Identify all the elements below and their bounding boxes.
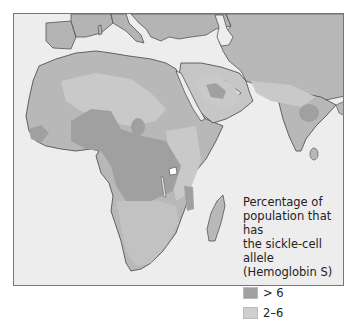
legend-swatch-medium bbox=[243, 307, 258, 319]
legend-title: Percentage of population that has the si… bbox=[243, 195, 353, 279]
legend-title-line: (Hemoglobin S) bbox=[243, 265, 353, 279]
legend-label-medium: 2–6 bbox=[263, 306, 283, 320]
legend-label-high: > 6 bbox=[263, 286, 284, 300]
sardinia-land bbox=[98, 25, 102, 35]
legend-title-line: population that has bbox=[243, 209, 353, 237]
legend-item-medium: 2–6 bbox=[243, 305, 353, 321]
iberia-land bbox=[46, 21, 76, 49]
zone-gt6-chad bbox=[131, 118, 145, 136]
legend-title-line: Percentage of bbox=[243, 195, 353, 209]
sri-lanka-land bbox=[310, 148, 318, 160]
legend-title-line: the sickle-cell allele bbox=[243, 237, 353, 265]
legend-item-high: > 6 bbox=[243, 285, 353, 301]
zone-gt6-india bbox=[299, 104, 319, 122]
map-legend: Percentage of population that has the si… bbox=[243, 195, 353, 323]
legend-swatch-high bbox=[243, 287, 258, 299]
